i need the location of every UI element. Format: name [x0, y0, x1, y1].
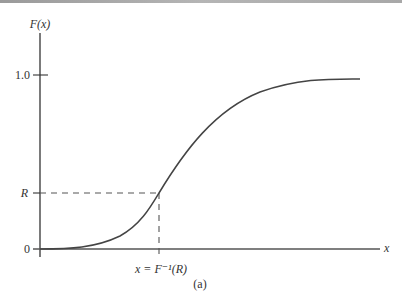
cdf-chart: F(x) 1.0 R 0 x x = F⁻¹(R) (a) [0, 0, 402, 305]
tick-label-one: 1.0 [15, 68, 30, 82]
cdf-curve [40, 79, 360, 249]
tick-label-zero: 0 [24, 242, 30, 256]
figure-caption: (a) [193, 277, 206, 291]
x-inverse-label: x = F⁻¹(R) [134, 262, 187, 276]
tick-label-r: R [20, 186, 29, 200]
y-axis-label: F(x) [29, 17, 51, 31]
x-axis-label: x [383, 241, 390, 255]
